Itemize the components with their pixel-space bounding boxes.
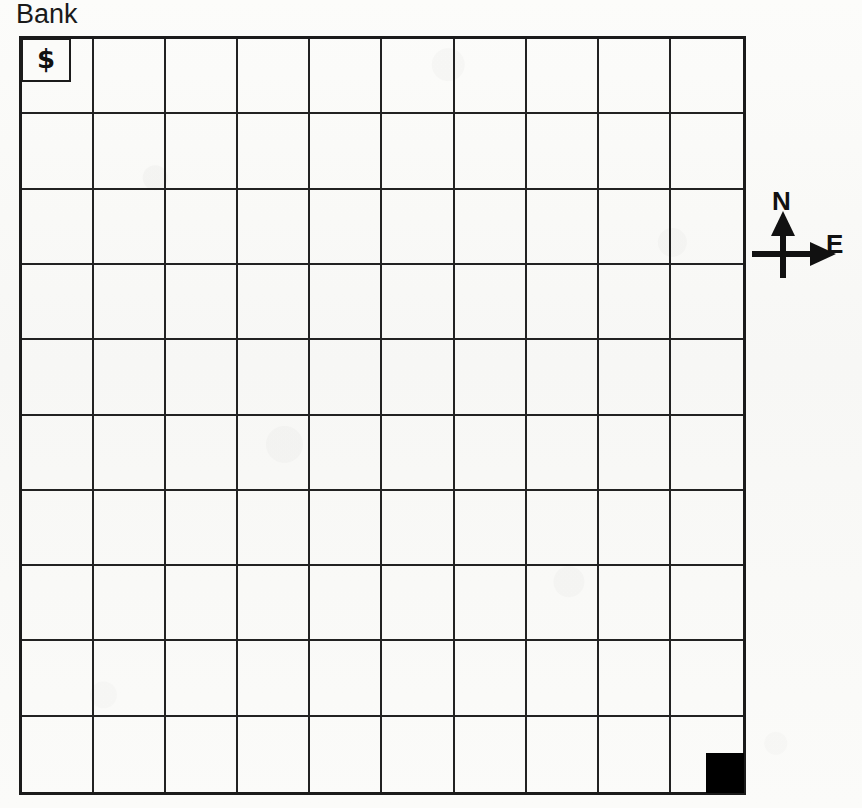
grid-cell[interactable] [382,340,454,415]
grid-cell[interactable] [310,265,382,340]
grid-cell[interactable] [599,491,671,566]
grid-cell[interactable] [94,39,166,114]
grid-cell[interactable] [671,190,743,265]
grid-cell[interactable] [671,114,743,189]
grid-cell[interactable] [166,265,238,340]
grid-cell[interactable] [599,114,671,189]
grid-cell[interactable] [22,717,94,792]
grid-cell[interactable] [22,265,94,340]
grid-cell[interactable] [94,190,166,265]
grid-cell[interactable] [94,340,166,415]
grid-cell[interactable]: $ [22,39,94,114]
grid-cell[interactable] [527,114,599,189]
grid-cell[interactable] [166,114,238,189]
grid-cell[interactable] [599,265,671,340]
grid-cell[interactable] [238,491,310,566]
grid-cell[interactable] [671,491,743,566]
grid-cell[interactable] [166,416,238,491]
grid-cell[interactable] [166,190,238,265]
grid-cell[interactable] [238,265,310,340]
grid-cell[interactable] [455,190,527,265]
grid-cell[interactable] [455,416,527,491]
grid-cell[interactable] [94,265,166,340]
grid-cell[interactable] [166,641,238,716]
grid-cell[interactable] [94,641,166,716]
grid-cell[interactable] [238,39,310,114]
bank-marker[interactable]: $ [21,38,71,82]
grid-cell[interactable] [310,566,382,641]
grid-cell[interactable] [382,39,454,114]
grid-cell[interactable] [455,39,527,114]
grid-cell[interactable] [527,416,599,491]
grid-cell[interactable] [310,39,382,114]
grid-cell[interactable] [310,340,382,415]
grid-cell[interactable] [382,566,454,641]
grid-cell[interactable] [527,717,599,792]
grid-cell[interactable] [671,265,743,340]
grid-cell[interactable] [166,717,238,792]
grid-cell[interactable] [382,641,454,716]
grid-cell[interactable] [455,641,527,716]
grid-cell[interactable] [527,265,599,340]
grid-cell[interactable] [238,641,310,716]
grid-cell[interactable] [238,114,310,189]
grid-cell[interactable] [527,190,599,265]
grid-cell[interactable] [382,190,454,265]
grid-cell[interactable] [671,717,743,792]
grid-cell[interactable] [22,416,94,491]
grid-cell[interactable] [94,114,166,189]
grid-cell[interactable] [238,190,310,265]
grid-cell[interactable] [382,491,454,566]
grid-cell[interactable] [527,566,599,641]
grid-cell[interactable] [238,717,310,792]
grid-cell[interactable] [94,717,166,792]
grid-cell[interactable] [22,340,94,415]
grid-cell[interactable] [599,416,671,491]
grid-cell[interactable] [238,416,310,491]
grid-cell[interactable] [94,416,166,491]
grid-cell[interactable] [671,340,743,415]
grid-cell[interactable] [599,717,671,792]
grid-cell[interactable] [382,416,454,491]
grid-cell[interactable] [671,566,743,641]
grid-cell[interactable] [310,190,382,265]
grid-cell[interactable] [382,114,454,189]
grid-cell[interactable] [455,340,527,415]
grid-cell[interactable] [599,190,671,265]
grid-cell[interactable] [527,491,599,566]
grid-cell[interactable] [599,641,671,716]
grid-cell[interactable] [166,39,238,114]
grid-cell[interactable] [22,114,94,189]
grid-cell[interactable] [166,491,238,566]
grid-cell[interactable] [94,566,166,641]
map-grid[interactable]: $ [19,36,746,795]
grid-cell[interactable] [527,641,599,716]
grid-cell[interactable] [671,39,743,114]
grid-cell[interactable] [455,265,527,340]
grid-cell[interactable] [310,491,382,566]
grid-cell[interactable] [382,265,454,340]
grid-cell[interactable] [94,491,166,566]
grid-cell[interactable] [310,641,382,716]
grid-cell[interactable] [599,39,671,114]
grid-cell[interactable] [527,340,599,415]
grid-cell[interactable] [310,717,382,792]
grid-cell[interactable] [455,491,527,566]
grid-cell[interactable] [455,114,527,189]
grid-cell[interactable] [238,566,310,641]
grid-cell[interactable] [166,340,238,415]
grid-cell[interactable] [310,416,382,491]
grid-cell[interactable] [599,340,671,415]
grid-cell[interactable] [671,641,743,716]
grid-cell[interactable] [166,566,238,641]
grid-cell[interactable] [527,39,599,114]
goal-marker-icon[interactable] [706,753,744,793]
grid-cell[interactable] [22,641,94,716]
grid-cell[interactable] [455,566,527,641]
grid-cell[interactable] [22,566,94,641]
grid-cell[interactable] [310,114,382,189]
grid-cell[interactable] [238,340,310,415]
grid-cell[interactable] [455,717,527,792]
grid-cell[interactable] [22,190,94,265]
grid-cell[interactable] [382,717,454,792]
